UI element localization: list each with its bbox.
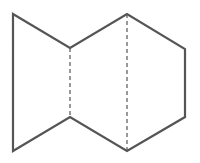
- net-outline: [13, 14, 185, 151]
- diagram-canvas: [0, 0, 200, 163]
- fold-lines: [70, 14, 127, 151]
